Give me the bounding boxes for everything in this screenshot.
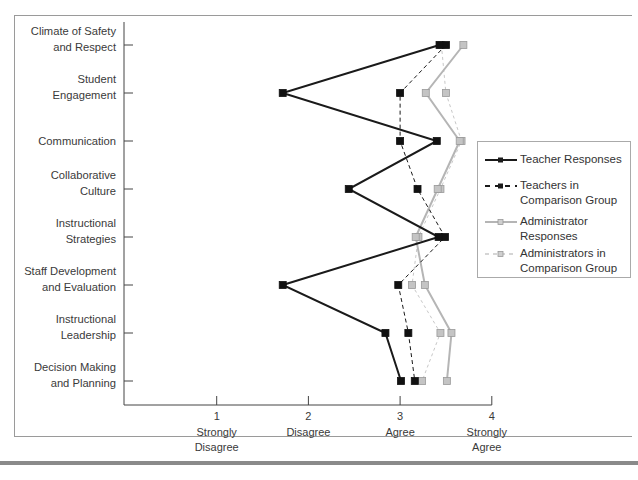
legend-label: Teacher Responses <box>520 152 630 167</box>
data-point-marker <box>421 282 428 289</box>
legend-item-administrators-comparison: Administrators in Comparison Group <box>478 246 632 278</box>
data-point-marker <box>395 282 402 289</box>
data-point-marker <box>345 186 352 193</box>
legend-item-administrator-responses: Administrator Responses <box>478 214 632 246</box>
legend: Teacher Responses Teachers in Comparison… <box>477 141 631 278</box>
category-label: Decision Making <box>34 361 116 373</box>
data-point-marker <box>435 234 442 241</box>
x-tick-sublabel: Strongly <box>467 426 508 438</box>
series-lines <box>279 42 467 385</box>
category-label: Staff Development <box>24 265 117 277</box>
data-point-marker <box>412 234 419 241</box>
data-point-marker <box>397 90 404 97</box>
category-label: Leadership <box>61 329 116 341</box>
category-label: Instructional <box>56 313 116 325</box>
x-tick-sublabel: Disagree <box>286 426 330 438</box>
data-point-marker <box>442 234 449 241</box>
data-point-marker <box>414 186 421 193</box>
category-label: Strategies <box>66 233 117 245</box>
category-label: Communication <box>38 135 116 147</box>
category-label: Engagement <box>53 89 117 101</box>
x-tick-label: 2 <box>305 410 311 422</box>
category-label: Student <box>77 73 116 85</box>
category-label: Climate of Safety <box>31 25 117 37</box>
x-tick-sublabel: Agree <box>472 441 501 453</box>
category-label: Culture <box>80 185 116 197</box>
data-point-marker <box>460 42 467 49</box>
solid-gray-line-icon <box>483 214 519 230</box>
category-label: and Planning <box>51 377 116 389</box>
data-point-marker <box>419 378 426 385</box>
x-tick-sublabel: Strongly <box>197 426 238 438</box>
data-point-marker <box>422 90 429 97</box>
data-point-marker <box>437 330 444 337</box>
x-tick-label: 1 <box>214 410 220 422</box>
x-tick-label: 3 <box>397 410 403 422</box>
dashed-gray-line-icon <box>483 246 519 262</box>
data-point-marker <box>398 378 405 385</box>
data-point-marker <box>409 282 416 289</box>
x-tick-labels: 1StronglyDisagree2Disagree3Agree4Strongl… <box>195 410 508 453</box>
data-point-marker <box>382 330 389 337</box>
x-tick-label: 4 <box>489 410 495 422</box>
legend-label: Teachers in Comparison Group <box>520 178 630 208</box>
data-point-marker <box>442 90 449 97</box>
category-label: and Respect <box>53 41 117 53</box>
x-tick-sublabel: Disagree <box>195 441 239 453</box>
data-point-marker <box>434 186 441 193</box>
solid-black-line-icon <box>483 152 519 168</box>
data-point-marker <box>443 378 450 385</box>
legend-label: Administrators in Comparison Group <box>520 246 630 276</box>
dashed-black-line-icon <box>483 178 519 194</box>
data-point-marker <box>405 330 412 337</box>
data-point-marker <box>456 138 463 145</box>
data-point-marker <box>411 378 418 385</box>
category-label: Collaborative <box>51 169 116 181</box>
series-line <box>283 45 440 381</box>
data-point-marker <box>442 42 449 49</box>
category-label: Instructional <box>56 217 116 229</box>
data-point-marker <box>397 138 404 145</box>
data-point-marker <box>433 138 440 145</box>
data-point-marker <box>436 42 443 49</box>
data-point-marker <box>448 330 455 337</box>
legend-label: Administrator Responses <box>520 214 630 244</box>
x-tick-sublabel: Agree <box>385 426 414 438</box>
legend-item-teachers-comparison: Teachers in Comparison Group <box>478 178 632 210</box>
data-point-marker <box>279 282 286 289</box>
data-point-marker <box>279 90 286 97</box>
category-label: and Evaluation <box>42 281 116 293</box>
category-labels: Climate of Safetyand RespectStudentEngag… <box>24 25 117 389</box>
legend-item-teacher-responses: Teacher Responses <box>478 152 632 170</box>
